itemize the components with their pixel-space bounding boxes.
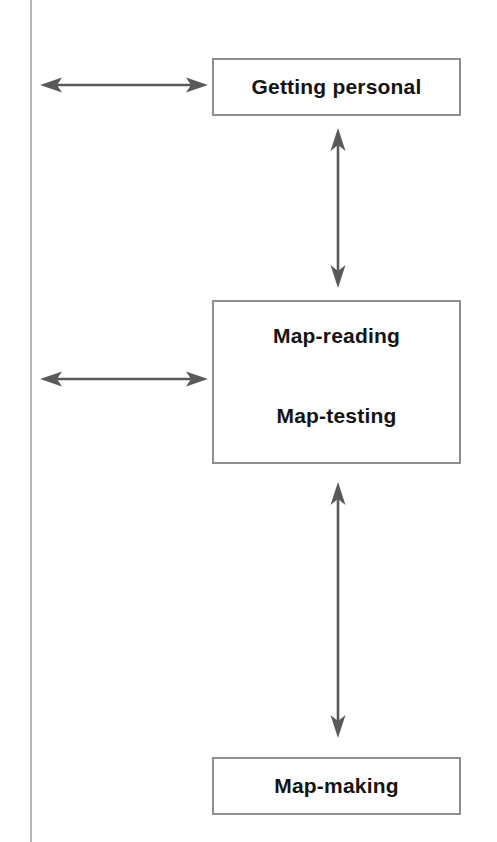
- double-headed-arrow-horizontal-icon: [40, 74, 208, 96]
- box-label-map-making: Map-making: [274, 774, 399, 798]
- box-label-getting-personal: Getting personal: [251, 75, 421, 99]
- arrow-left-to-getting-personal: [40, 74, 208, 96]
- arrow-left-to-map-reading-testing: [40, 368, 208, 390]
- box-label-map-reading: Map-reading: [273, 324, 400, 348]
- box-label-map-testing: Map-testing: [276, 404, 396, 428]
- page-edge-rule: [30, 0, 32, 842]
- arrow-getting-personal-to-map-reading-testing: [325, 128, 351, 288]
- double-headed-arrow-vertical-icon: [325, 128, 351, 288]
- box-map-reading-testing: Map-reading Map-testing: [212, 300, 461, 464]
- box-getting-personal: Getting personal: [212, 58, 461, 116]
- double-headed-arrow-horizontal-icon: [40, 368, 208, 390]
- double-headed-arrow-vertical-icon: [325, 482, 351, 738]
- arrow-map-reading-testing-to-map-making: [325, 482, 351, 738]
- box-map-making: Map-making: [212, 757, 461, 815]
- diagram-canvas: Getting personal Map-reading Map-testing…: [0, 0, 497, 842]
